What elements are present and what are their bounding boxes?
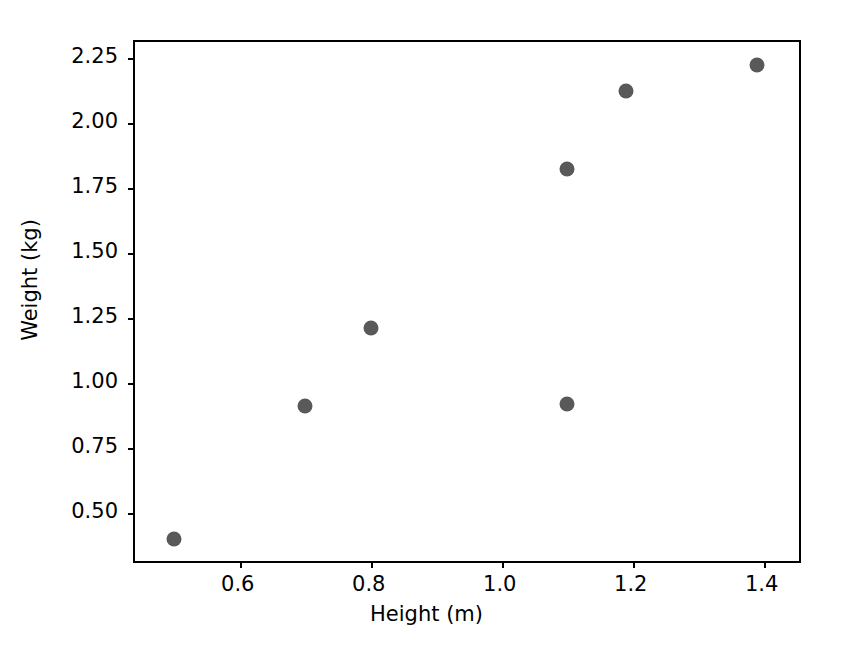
x-tick-mark: [371, 561, 373, 568]
y-tick-mark: [128, 58, 135, 60]
x-tick-label: 1.0: [483, 572, 516, 596]
y-tick-label: 1.50: [71, 239, 118, 263]
y-tick-label: 2.00: [71, 109, 118, 133]
x-axis-tick-labels: 0.60.81.01.21.4: [133, 572, 801, 602]
data-point: [560, 162, 575, 177]
x-tick-mark: [502, 561, 504, 568]
data-point: [750, 58, 765, 73]
x-tick-label: 1.2: [614, 572, 647, 596]
y-tick-mark: [128, 448, 135, 450]
x-tick-mark: [633, 561, 635, 568]
x-tick-label: 1.4: [745, 572, 778, 596]
y-tick-mark: [128, 383, 135, 385]
y-tick-mark: [128, 253, 135, 255]
y-tick-mark: [128, 123, 135, 125]
y-tick-label: 1.25: [71, 304, 118, 328]
x-tick-mark: [764, 561, 766, 568]
data-point: [298, 399, 313, 414]
y-tick-label: 0.75: [71, 434, 118, 458]
x-axis-title: Height (m): [0, 602, 853, 626]
x-tick-mark: [240, 561, 242, 568]
y-tick-label: 2.25: [71, 44, 118, 68]
data-point: [619, 84, 634, 99]
y-tick-label: 1.75: [71, 174, 118, 198]
y-tick-label: 0.50: [71, 499, 118, 523]
plot-axes-area: [133, 40, 801, 563]
x-tick-label: 0.6: [221, 572, 254, 596]
scatter-plot-figure: 0.500.751.001.251.501.752.002.25 0.60.81…: [0, 0, 853, 646]
y-tick-label: 1.00: [71, 369, 118, 393]
data-point: [560, 396, 575, 411]
y-tick-mark: [128, 188, 135, 190]
y-axis-title: Weight (kg): [18, 150, 42, 410]
data-point: [363, 321, 378, 336]
y-tick-mark: [128, 513, 135, 515]
data-point: [167, 531, 182, 546]
y-tick-mark: [128, 318, 135, 320]
x-tick-label: 0.8: [352, 572, 385, 596]
